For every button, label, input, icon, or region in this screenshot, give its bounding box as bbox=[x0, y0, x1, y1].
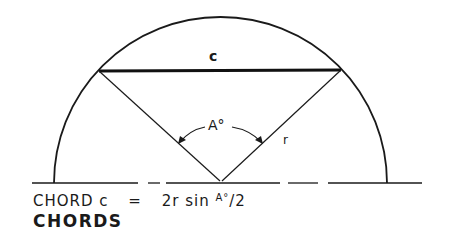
chord-formula: CHORD c = 2r sin A°/2 bbox=[33, 193, 246, 209]
formula-tail: /2 bbox=[229, 192, 246, 210]
formula-lhs: CHORD c bbox=[33, 192, 109, 210]
formula-equals: = bbox=[128, 192, 142, 210]
formula-superscript: A° bbox=[215, 192, 229, 203]
chord-line bbox=[99, 70, 341, 71]
angle-label: A° bbox=[208, 118, 225, 132]
formula-rhs: 2r sin bbox=[162, 192, 210, 210]
diagram-title: CHORDS bbox=[33, 213, 123, 230]
semicircle-arc bbox=[54, 17, 387, 183]
radius-left bbox=[99, 71, 220, 181]
radius-right bbox=[222, 70, 341, 181]
chord-label: c bbox=[209, 49, 217, 63]
radius-label: r bbox=[283, 134, 288, 146]
